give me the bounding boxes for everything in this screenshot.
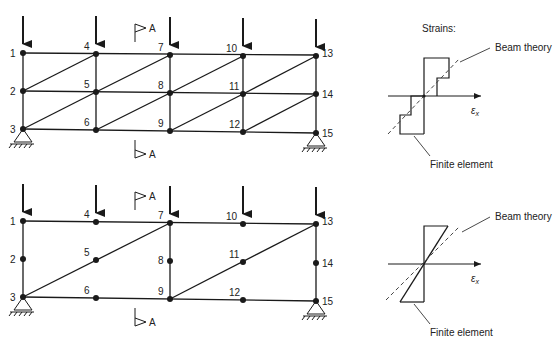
- strain-axis-label: εx: [471, 273, 479, 285]
- svg-text:12: 12: [229, 119, 241, 130]
- section-flag-icon: [135, 140, 146, 158]
- mesh-bottom-section-marker: [135, 192, 146, 326]
- svg-text:11: 11: [229, 249, 240, 260]
- svg-text:8: 8: [158, 80, 164, 91]
- mesh-top-load-arrows: [23, 16, 316, 47]
- finite-element-label: Finite element: [430, 159, 493, 170]
- section-label: A: [149, 191, 156, 202]
- svg-text:6: 6: [84, 117, 90, 128]
- mesh-bottom-load-arrows: [23, 184, 316, 215]
- svg-text:10: 10: [226, 211, 238, 222]
- svg-text:3: 3: [10, 124, 16, 135]
- section-label: A: [149, 23, 156, 34]
- section-label: A: [149, 317, 156, 328]
- svg-text:13: 13: [322, 48, 334, 59]
- svg-text:2: 2: [10, 254, 16, 265]
- section-flag-icon: [135, 24, 146, 42]
- beam-theory-label: Beam theory: [495, 42, 552, 53]
- finite-element-label: Finite element: [430, 327, 493, 338]
- mesh-top-section-marker: [135, 24, 146, 158]
- svg-text:13: 13: [322, 216, 334, 227]
- strain-axis-label: εx: [471, 105, 479, 117]
- svg-text:11: 11: [229, 81, 240, 92]
- svg-text:14: 14: [322, 89, 334, 100]
- svg-text:1: 1: [10, 48, 16, 59]
- svg-text:2: 2: [10, 86, 16, 97]
- svg-text:9: 9: [158, 286, 164, 297]
- svg-text:9: 9: [158, 118, 164, 129]
- svg-text:3: 3: [10, 292, 16, 303]
- section-label: A: [149, 149, 156, 160]
- strain-plot-bottom: [386, 217, 490, 324]
- section-flag-icon: [135, 308, 146, 326]
- svg-text:8: 8: [158, 255, 164, 266]
- svg-text:15: 15: [322, 296, 334, 307]
- svg-text:12: 12: [229, 287, 241, 298]
- strains-title: Strains:: [422, 23, 456, 34]
- svg-text:6: 6: [84, 285, 90, 296]
- beam-theory-line: [386, 226, 460, 300]
- section-flag-icon: [135, 192, 146, 210]
- strain-origin: [422, 94, 425, 97]
- svg-text:15: 15: [322, 128, 334, 139]
- beam-theory-label: Beam theory: [495, 211, 552, 222]
- svg-text:14: 14: [322, 258, 334, 269]
- svg-text:4: 4: [84, 209, 90, 220]
- svg-text:7: 7: [158, 42, 164, 53]
- svg-text:4: 4: [84, 41, 90, 52]
- diagram-canvas: 1 2 3 4 5 6 7 8 9 10 11 12 13 14 15: [0, 0, 556, 344]
- strain-plot-top: [388, 48, 490, 156]
- svg-text:1: 1: [10, 216, 16, 227]
- svg-text:5: 5: [84, 79, 90, 90]
- svg-text:7: 7: [158, 210, 164, 221]
- svg-text:5: 5: [84, 247, 90, 258]
- svg-text:10: 10: [226, 43, 238, 54]
